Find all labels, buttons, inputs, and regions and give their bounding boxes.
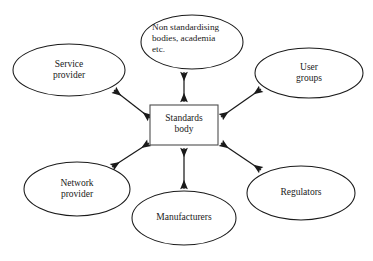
node-shape-user-groups[interactable] bbox=[255, 48, 363, 98]
node-shape-regulators[interactable] bbox=[247, 166, 355, 220]
connector-standards-body-to-regulators bbox=[221, 143, 261, 170]
diagram-canvas: Non standardising bodies, academia etc. … bbox=[0, 0, 373, 261]
node-shape-standards-body[interactable] bbox=[150, 105, 218, 145]
connector-standards-body-to-network-provider bbox=[112, 143, 149, 167]
node-shape-non-standardising-bodies[interactable] bbox=[141, 15, 243, 69]
node-shape-manufacturers[interactable] bbox=[132, 191, 236, 245]
connector-standards-body-to-user-groups bbox=[221, 89, 261, 117]
node-shape-service-provider[interactable] bbox=[13, 44, 125, 96]
node-shape-network-provider[interactable] bbox=[24, 162, 130, 216]
connector-standards-body-to-service-provider bbox=[114, 90, 150, 118]
diagram-svg bbox=[0, 0, 373, 261]
